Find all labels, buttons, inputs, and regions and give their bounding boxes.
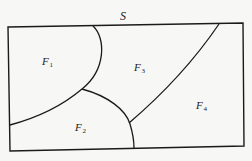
partition-diagram: S F 1 F 3 F 4 F 2 [0,0,252,161]
svg-text:F: F [41,55,49,67]
svg-text:1: 1 [50,61,54,69]
set-label-s: S [120,9,126,23]
svg-text:F: F [195,99,203,111]
svg-text:2: 2 [83,127,87,135]
svg-text:F: F [74,121,82,133]
svg-text:3: 3 [142,67,146,75]
svg-text:4: 4 [204,105,208,113]
svg-text:F: F [133,61,141,73]
